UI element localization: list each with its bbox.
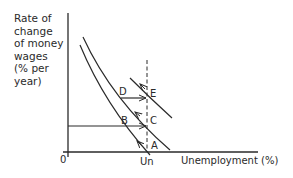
point-label-e: E — [150, 88, 156, 99]
point-label-c: C — [150, 115, 157, 126]
phillips-curve-diagram: D E B C A 0 Un Unemployment (%) — [0, 0, 293, 178]
origin-label: 0 — [60, 154, 66, 165]
curve-arrow-c-to-d — [135, 112, 140, 116]
short-run-phillips-curve-1 — [80, 45, 150, 155]
point-label-a: A — [151, 140, 158, 151]
curve-arrow-a-to-b — [137, 141, 142, 146]
natural-rate-label: Un — [140, 156, 154, 167]
x-axis-label: Unemployment (%) — [181, 155, 278, 166]
point-label-d: D — [119, 86, 127, 97]
point-label-b: B — [121, 115, 128, 126]
